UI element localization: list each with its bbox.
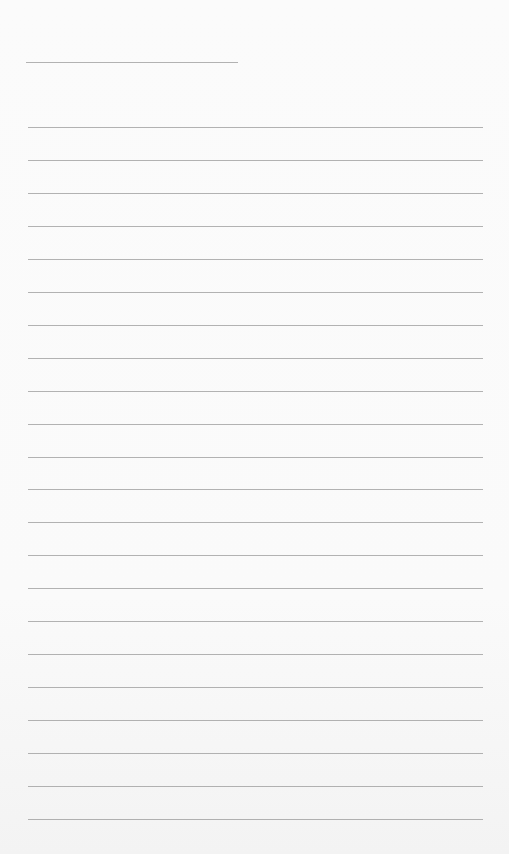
ruled-line: [28, 720, 483, 721]
ruled-line: [28, 358, 483, 359]
ruled-line: [28, 325, 483, 326]
ruled-line: [28, 127, 483, 128]
name-line: [26, 62, 238, 63]
ruled-line: [28, 391, 483, 392]
ruled-line: [28, 687, 483, 688]
ruled-line: [28, 819, 483, 820]
ruled-line: [28, 292, 483, 293]
ruled-line: [28, 588, 483, 589]
ruled-line: [28, 457, 483, 458]
ruled-line: [28, 489, 483, 490]
ruled-line: [28, 654, 483, 655]
ruled-line: [28, 555, 483, 556]
ruled-line: [28, 193, 483, 194]
ruled-line: [28, 522, 483, 523]
ruled-line: [28, 424, 483, 425]
ruled-line: [28, 160, 483, 161]
ruled-line: [28, 753, 483, 754]
ruled-line: [28, 786, 483, 787]
ruled-line: [28, 621, 483, 622]
ruled-line: [28, 259, 483, 260]
ruled-line: [28, 226, 483, 227]
lined-paper-page: [0, 0, 509, 854]
